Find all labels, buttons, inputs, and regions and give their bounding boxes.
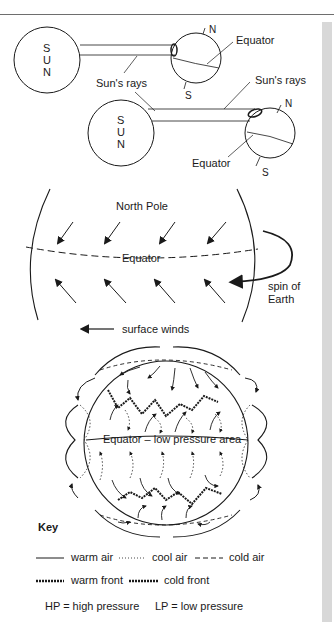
- key-high-pressure: HP = high pressure: [45, 600, 139, 612]
- equator-label: Equator: [192, 157, 231, 169]
- panel-sun-earth-1: S U N N S Equator Sun's rays: [14, 24, 275, 101]
- key-cold-front: cold front: [164, 574, 209, 586]
- panel-coriolis: North Pole Equator spin of Earth surface…: [26, 189, 301, 335]
- rays-label: Sun's rays: [96, 77, 148, 89]
- key-title: Key: [38, 521, 59, 533]
- sun-letter: N: [117, 138, 125, 150]
- key-warm-air: warm air: [71, 551, 113, 563]
- spin-label: spin of: [268, 280, 301, 292]
- south-label: S: [262, 167, 269, 178]
- surface-winds-label: surface winds: [122, 323, 190, 335]
- key-cool-air: cool air: [152, 551, 187, 563]
- north-label: N: [209, 24, 216, 35]
- sun-letter: S: [117, 114, 124, 126]
- earth-circle: [171, 33, 221, 83]
- panel-sun-earth-2: S U N N S Equator Sun's rays: [88, 74, 307, 178]
- sun-letter: U: [43, 54, 51, 66]
- key-cold-air: cold air: [229, 551, 264, 563]
- north-label: N: [285, 98, 292, 109]
- equator-low-pressure-label: Equator – low pressure area: [103, 433, 242, 445]
- spin-label: Earth: [268, 293, 294, 305]
- sun-letter: N: [43, 66, 51, 78]
- atmosphere-diagram: S U N N S Equator Sun's rays S U N N S E…: [0, 0, 334, 635]
- panel-global-circulation: Equator – low pressure area: [36, 347, 267, 581]
- south-label: S: [185, 90, 192, 101]
- north-pole-label: North Pole: [116, 200, 168, 212]
- sun-letter: U: [117, 126, 125, 138]
- equator-label: Equator: [122, 252, 161, 264]
- equator-label: Equator: [236, 34, 275, 46]
- key-warm-front: warm front: [71, 574, 123, 586]
- sun-letter: S: [43, 42, 50, 54]
- key-low-pressure: LP = low pressure: [155, 600, 243, 612]
- rays-label: Sun's rays: [255, 74, 307, 86]
